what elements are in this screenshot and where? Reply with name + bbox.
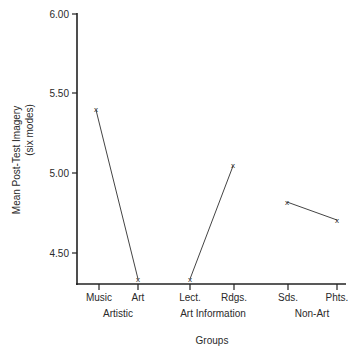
y-axis-sublabel: (six modes)	[24, 104, 35, 156]
x-marker-icon: x	[188, 275, 192, 284]
x-marker-icon: x	[94, 105, 98, 114]
chart: 6.00 5.50 5.00 4.50 Mean Post-Test Image…	[0, 0, 355, 349]
x-marker-icon: x	[231, 161, 235, 170]
series-non-art	[287, 202, 337, 220]
x-ticks: Music Art Lect. Rdgs. Sds. Phts.	[86, 284, 348, 303]
x-tick-label: Art	[132, 292, 145, 303]
y-tick-label: 6.00	[50, 9, 70, 20]
y-tick-label: 5.50	[50, 88, 70, 99]
group-label-non-art: Non-Art	[295, 308, 330, 319]
y-ticks: 6.00 5.50 5.00 4.50	[50, 9, 77, 259]
group-label-art-information: Art Information	[180, 308, 246, 319]
x-tick-label: Rdgs.	[221, 292, 247, 303]
series-art-information	[190, 166, 233, 279]
group-label-artistic: Artistic	[103, 308, 133, 319]
y-axis-label: Mean Post-Test Imagery	[11, 106, 22, 214]
y-tick-label: 5.00	[50, 168, 70, 179]
x-axis-label: Groups	[196, 335, 229, 346]
x-marker-icon: x	[136, 275, 140, 284]
x-tick-label: Lect.	[179, 292, 201, 303]
x-tick-label: Music	[86, 292, 112, 303]
x-tick-label: Sds.	[278, 292, 298, 303]
x-marker-icon: x	[285, 198, 289, 207]
x-marker-icon: x	[335, 216, 339, 225]
series-artistic	[96, 110, 138, 279]
x-tick-label: Phts.	[326, 292, 349, 303]
y-tick-label: 4.50	[50, 248, 70, 259]
data-markers: x x x x x x	[94, 105, 339, 284]
